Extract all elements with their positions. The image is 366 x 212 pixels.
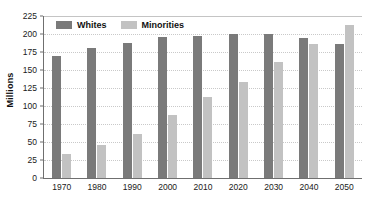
bar-minorities-2040 [309,44,318,178]
x-axis-tick-label: 2030 [256,182,291,192]
bar-whites-1990 [123,43,132,178]
y-axis-tick-label: 100 [23,102,37,111]
bar-minorities-1990 [133,134,142,178]
x-axis-tick-label: 2000 [150,182,185,192]
chart-legend: WhitesMinorities [56,20,184,30]
y-axis-tick-label: 225 [23,12,37,21]
y-axis-tick-labels: 0255075100125150175200225 [18,16,40,178]
bar-whites-1980 [87,48,96,178]
bar-minorities-2030 [274,62,283,178]
bar-whites-2020 [229,34,238,178]
bar-group [256,16,291,178]
bar-group [291,16,326,178]
bar-minorities-1970 [62,154,71,178]
y-axis-tick-label: 175 [23,48,37,57]
bar-group [79,16,114,178]
x-axis-tick-label: 2050 [327,182,362,192]
bar-minorities-2010 [203,97,212,178]
bar-group [150,16,185,178]
legend-swatch-whites [56,21,72,29]
legend-swatch-minorities [121,21,137,29]
bar-whites-2050 [335,44,344,178]
bar-minorities-1980 [97,145,106,178]
bar-chart: Millions 0255075100125150175200225 19701… [0,0,366,212]
y-axis-tick-label: 25 [28,156,37,165]
legend-label-whites: Whites [77,20,107,30]
x-axis-tick-labels: 197019801990200020102020203020402050 [44,182,362,192]
y-axis-tick-label: 150 [23,66,37,75]
x-axis-tick-label: 1980 [79,182,114,192]
y-axis-tick-label: 200 [23,30,37,39]
legend-label-minorities: Minorities [142,20,185,30]
y-axis-tick-label: 75 [28,120,37,129]
bars-layer [44,16,362,178]
bar-whites-2000 [158,37,167,178]
y-axis-tick-label: 125 [23,84,37,93]
bar-minorities-2020 [239,82,248,178]
bar-minorities-2000 [168,115,177,178]
y-axis-tick-label: 50 [28,138,37,147]
y-axis-title: Millions [0,0,20,180]
y-axis-tick-label: 0 [32,174,37,183]
bar-whites-2040 [299,38,308,178]
bar-group [185,16,220,178]
bar-whites-2010 [193,36,202,178]
y-axis-title-label: Millions [5,72,15,107]
bar-whites-2030 [264,34,273,178]
legend-entry-whites: Whites [56,20,107,30]
legend-entry-minorities: Minorities [121,20,185,30]
x-axis-tick-label: 2040 [291,182,326,192]
bar-whites-1970 [52,56,61,178]
bar-minorities-2050 [345,25,354,178]
bar-group [44,16,79,178]
bar-group [221,16,256,178]
x-axis-tick-label: 1990 [115,182,150,192]
x-axis-tick-label: 1970 [44,182,79,192]
plot-area [43,16,362,179]
x-axis-tick-label: 2010 [185,182,220,192]
x-axis-tick-label: 2020 [221,182,256,192]
bar-group [115,16,150,178]
bar-group [327,16,362,178]
